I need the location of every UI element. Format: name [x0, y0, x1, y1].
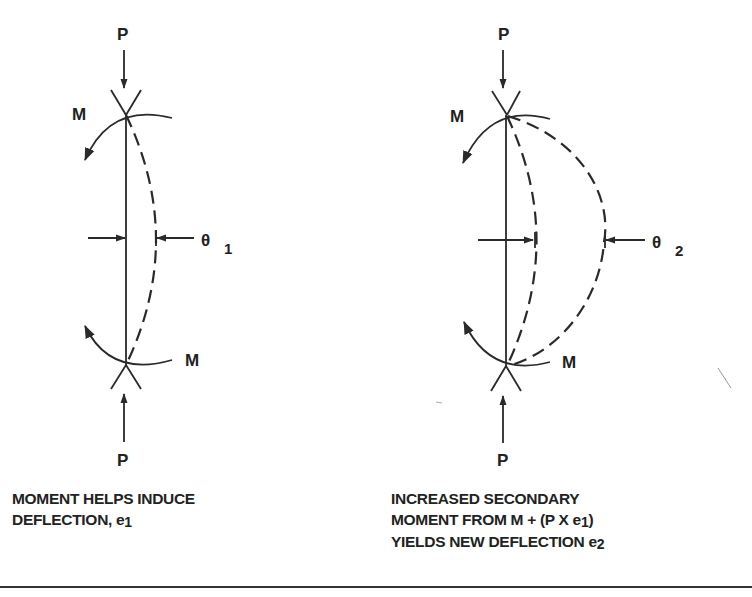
- pin-support-bottom-icon: [491, 366, 506, 391]
- moment-label-top: M: [450, 107, 464, 126]
- bottom-rule-divider: [0, 586, 752, 588]
- pin-support-top-icon: [111, 90, 126, 115]
- right-caption-line2: MOMENT FROM M + (P X e1): [391, 509, 604, 531]
- deflection-symbol-theta1: θ: [201, 231, 210, 250]
- load-label-top: P: [498, 25, 509, 44]
- deflection-subscript-2: 2: [675, 242, 683, 259]
- left-caption-line1: MOMENT HELPS INDUCE: [12, 488, 195, 509]
- pin-support-bottom-icon: [111, 365, 126, 389]
- moment-arrow-bottom-icon: [464, 322, 550, 366]
- right-caption: INCREASED SECONDARY MOMENT FROM M + (P X…: [391, 488, 604, 553]
- left-panel: P M M P θ 1: [72, 25, 232, 470]
- deflected-shape-curve: [126, 115, 156, 365]
- right-caption-line3: YIELDS NEW DEFLECTION e2: [391, 531, 604, 553]
- scan-artifact: [718, 368, 731, 388]
- moment-label-bottom: M: [185, 351, 199, 370]
- load-label-top: P: [117, 25, 128, 44]
- deflection-subscript-1: 1: [224, 240, 232, 257]
- load-label-bottom: P: [497, 451, 508, 470]
- left-caption-line2: DEFLECTION, e1: [12, 509, 195, 531]
- deflection-symbol-theta2: θ: [652, 233, 661, 252]
- load-label-bottom: P: [117, 451, 128, 470]
- right-caption-line1: INCREASED SECONDARY: [391, 488, 604, 509]
- left-caption: MOMENT HELPS INDUCE DEFLECTION, e1: [12, 488, 195, 531]
- moment-label-bottom: M: [562, 353, 576, 372]
- first-deflected-shape-curve: [507, 116, 537, 366]
- pin-support-top-icon: [492, 91, 507, 115]
- right-panel: P M M P θ 2: [450, 25, 683, 470]
- moment-label-top: M: [72, 105, 86, 124]
